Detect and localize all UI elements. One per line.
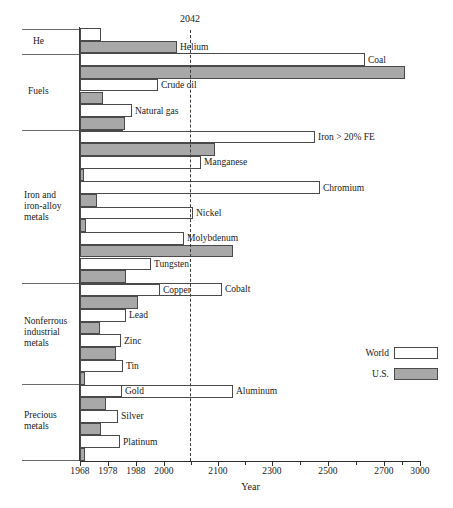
bar-label-helium: Helium	[177, 42, 209, 52]
bar-us	[80, 322, 100, 335]
x-tick-label-1968: 1968	[70, 466, 89, 476]
bar-us	[80, 423, 101, 436]
x-tick-label-1978: 1978	[98, 466, 117, 476]
bar-us	[80, 143, 215, 156]
bar-world	[80, 53, 365, 66]
legend: World U.S.	[355, 346, 438, 388]
bar-us	[80, 372, 85, 385]
bar-label-zinc: Zinc	[121, 336, 141, 346]
category-label-nonferrous: Nonferrousindustrialmetals	[24, 316, 67, 349]
bar-label-coal: Coal	[365, 55, 386, 65]
x-tick-label-2100: 2100	[208, 466, 227, 476]
bar-us	[80, 66, 405, 79]
marker-line-2042	[190, 30, 191, 461]
bar-label-natural-gas: Natural gas	[132, 106, 179, 116]
bar-label-tungsten: Tungsten	[151, 259, 189, 269]
category-rule-top	[22, 29, 80, 30]
bar-world	[80, 131, 315, 144]
bar-world	[80, 385, 122, 398]
x-tick-label-2300: 2300	[262, 466, 281, 476]
bar-label-molybdenum: Molybdenum	[184, 233, 238, 243]
bar-us	[80, 219, 86, 232]
legend-label-world: World	[355, 348, 389, 358]
bar-world	[80, 410, 118, 423]
marker-label-2042: 2042	[180, 13, 200, 24]
x-tick-label-3000: 3000	[410, 466, 429, 476]
bar-us	[80, 296, 138, 309]
bar-us	[80, 270, 126, 283]
bar-label-lead: Lead	[126, 310, 148, 320]
bar-label-aluminum: Aluminum	[233, 386, 277, 396]
category-label-precious: Preciousmetals	[24, 410, 57, 432]
x-tick-minor-2200	[245, 461, 246, 465]
bar-us	[80, 117, 125, 130]
bar-us	[80, 347, 116, 360]
x-axis-title-text: Year	[241, 481, 259, 492]
bar-label-platinum: Platinum	[120, 437, 157, 447]
bar-world	[80, 284, 160, 297]
bar-label-manganese: Manganese	[201, 157, 247, 167]
bar-label-copper: Copper	[160, 285, 191, 295]
bar-label-silver: Silver	[118, 411, 144, 421]
bar-world	[80, 104, 132, 117]
bar-us	[80, 194, 97, 207]
bar-label-iron: Iron > 20% FE	[315, 132, 375, 142]
x-tick-label-2000: 2000	[154, 466, 173, 476]
resource-depletion-chart: He Fuels Iron andiron-alloymetals Nonfer…	[0, 0, 453, 508]
x-tick-label-1988: 1988	[126, 466, 145, 476]
bar-label-chromium: Chromium	[320, 183, 364, 193]
legend-item-world: World	[355, 346, 438, 359]
bar-us	[80, 92, 103, 105]
category-rule-iron-nonferrous	[22, 283, 80, 284]
bar-world	[80, 232, 184, 245]
x-tick-label-2700: 2700	[374, 466, 393, 476]
bar-world	[80, 309, 126, 322]
bar-us	[80, 41, 177, 54]
bar-us	[80, 448, 85, 461]
bar-world	[80, 360, 123, 373]
bar-world	[80, 258, 151, 271]
category-label-fuels: Fuels	[28, 86, 49, 97]
bar-label-nickel: Nickel	[193, 208, 221, 218]
legend-label-us: U.S.	[355, 369, 389, 379]
bar-world	[80, 435, 120, 448]
plot-area: He Fuels Iron andiron-alloymetals Nonfer…	[0, 0, 453, 508]
x-axis-line	[80, 461, 421, 462]
bar-us	[80, 245, 233, 258]
legend-item-us: U.S.	[355, 367, 438, 380]
bar-world	[80, 28, 101, 41]
category-rule-bottom	[22, 460, 80, 461]
bar-label-tin: Tin	[123, 361, 139, 371]
bar-world	[80, 207, 193, 220]
category-label-he: He	[33, 36, 44, 47]
category-rule-nonferrous-precious	[22, 384, 80, 385]
bar-us	[80, 169, 84, 182]
category-rule-fuels-iron	[22, 130, 80, 131]
bar-world	[80, 334, 121, 347]
x-tick-minor-2600	[356, 461, 357, 465]
x-tick-minor-2050	[191, 461, 192, 465]
bar-label-cobalt: Cobalt	[222, 284, 250, 294]
bar-world	[80, 79, 158, 92]
category-label-iron: Iron andiron-alloymetals	[24, 190, 61, 223]
x-tick-minor-2400	[300, 461, 301, 465]
bar-us	[80, 397, 106, 410]
x-tick-minor-2850	[402, 461, 403, 465]
x-tick-label-2500: 2500	[318, 466, 337, 476]
legend-swatch-world	[394, 347, 438, 359]
x-axis-title: Year	[0, 481, 453, 492]
category-rule-he-fuels	[22, 54, 80, 55]
bar-world	[80, 181, 320, 194]
bar-world	[80, 156, 201, 169]
bar-label-gold: Gold	[122, 386, 144, 396]
legend-swatch-us	[394, 368, 438, 380]
